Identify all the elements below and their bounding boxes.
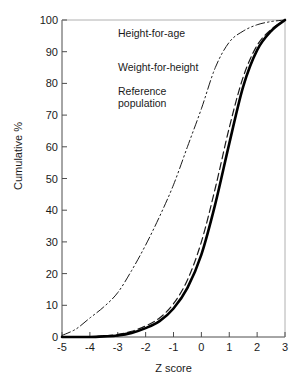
legend-label: Reference [118, 85, 166, 97]
chart-figure: Cumulative % Z score 0102030405060708090… [0, 0, 303, 383]
legend-swatch-dash-dot [72, 33, 112, 36]
legend-swatch-solid [72, 97, 112, 100]
plot-canvas [0, 0, 303, 383]
legend-label-line2: population [118, 97, 166, 109]
legend-label: Height-for-age [118, 27, 185, 39]
legend-label: Weight-for-height [118, 61, 198, 73]
legend-swatch-dashed [72, 67, 112, 70]
